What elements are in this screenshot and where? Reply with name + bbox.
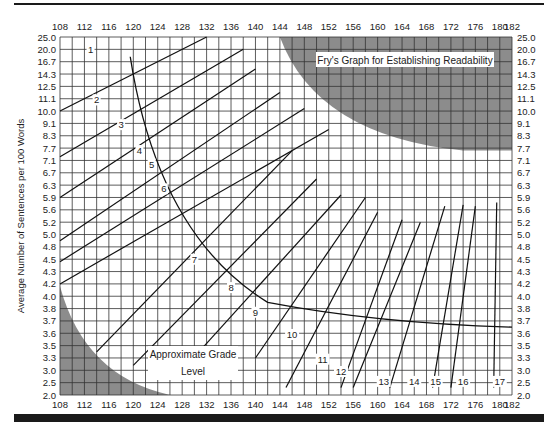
- svg-text:6.7: 6.7: [517, 167, 530, 178]
- svg-text:2.0: 2.0: [43, 390, 56, 401]
- svg-text:4.2: 4.2: [43, 278, 56, 289]
- svg-text:5.6: 5.6: [517, 204, 530, 215]
- x-axis-top-ticks: 1081121161201241281321361401441481521561…: [52, 21, 520, 32]
- svg-text:3.6: 3.6: [517, 328, 530, 339]
- grade-line-12: [341, 220, 402, 388]
- fry-readability-chart: 1081121161201241281321361401441481521561…: [0, 0, 558, 428]
- svg-text:16.7: 16.7: [38, 56, 57, 67]
- x-axis-bottom-ticks: 1081121161201241281321361401441481521561…: [52, 399, 520, 410]
- svg-text:112: 112: [77, 21, 92, 32]
- y-axis-left-ticks: 25.020.016.714.312.511.110.09.18.37.77.1…: [38, 32, 57, 401]
- svg-text:3.0: 3.0: [43, 365, 56, 376]
- svg-text:120: 120: [125, 21, 141, 32]
- svg-text:11.1: 11.1: [38, 93, 56, 104]
- svg-text:25.0: 25.0: [517, 32, 536, 43]
- svg-text:4.3: 4.3: [517, 266, 530, 277]
- svg-text:120: 120: [125, 399, 141, 410]
- svg-text:12.5: 12.5: [38, 81, 57, 92]
- grade-label-3: 3: [118, 119, 123, 130]
- svg-text:4.0: 4.0: [43, 291, 56, 302]
- svg-text:156: 156: [345, 21, 361, 32]
- grade-label-8: 8: [228, 282, 233, 293]
- svg-text:176: 176: [467, 21, 483, 32]
- svg-text:160: 160: [370, 399, 386, 410]
- svg-text:20.0: 20.0: [38, 44, 57, 55]
- svg-text:2.5: 2.5: [43, 377, 56, 388]
- grade-line-2: [60, 49, 243, 156]
- svg-text:136: 136: [223, 399, 239, 410]
- svg-text:164: 164: [394, 399, 410, 410]
- svg-text:14.3: 14.3: [38, 69, 57, 80]
- svg-text:6.3: 6.3: [43, 180, 56, 191]
- svg-text:3.6: 3.6: [43, 328, 56, 339]
- grade-label-1: 1: [88, 44, 93, 55]
- svg-text:168: 168: [419, 21, 435, 32]
- grade-annotation-line1: Approximate Grade: [150, 349, 237, 360]
- svg-text:116: 116: [101, 21, 116, 32]
- svg-text:108: 108: [52, 399, 68, 410]
- grade-label-15: 15: [430, 376, 441, 387]
- svg-text:172: 172: [443, 21, 459, 32]
- svg-text:176: 176: [467, 399, 483, 410]
- svg-text:160: 160: [370, 21, 386, 32]
- svg-text:152: 152: [321, 21, 337, 32]
- svg-text:2.5: 2.5: [517, 377, 530, 388]
- grade-line-17: [494, 202, 497, 387]
- svg-text:140: 140: [248, 399, 264, 410]
- grade-label-9: 9: [253, 307, 258, 318]
- svg-text:5.2: 5.2: [43, 217, 56, 228]
- svg-text:4.8: 4.8: [517, 241, 530, 252]
- svg-text:7.7: 7.7: [43, 143, 56, 154]
- svg-text:124: 124: [150, 399, 166, 410]
- grade-label-12: 12: [336, 366, 347, 377]
- svg-text:11.1: 11.1: [517, 93, 535, 104]
- svg-text:3.7: 3.7: [43, 315, 56, 326]
- svg-text:4.0: 4.0: [517, 291, 530, 302]
- svg-text:4.8: 4.8: [43, 241, 56, 252]
- svg-text:4.5: 4.5: [517, 254, 530, 265]
- svg-text:144: 144: [272, 21, 288, 32]
- svg-text:3.8: 3.8: [43, 303, 56, 314]
- svg-text:5.2: 5.2: [517, 217, 530, 228]
- svg-text:20.0: 20.0: [517, 44, 536, 55]
- y-axis-label: Average Number of Sentences per 100 Word…: [15, 118, 26, 313]
- svg-text:182: 182: [504, 21, 520, 32]
- chart-title-box: Fry's Graph for Establishing Readability: [316, 52, 494, 67]
- svg-text:3.8: 3.8: [517, 303, 530, 314]
- svg-text:132: 132: [199, 399, 215, 410]
- svg-text:8.3: 8.3: [43, 130, 56, 141]
- grade-label-6: 6: [161, 183, 166, 194]
- svg-text:128: 128: [174, 21, 190, 32]
- svg-text:6.7: 6.7: [43, 167, 56, 178]
- grade-label-13: 13: [378, 376, 389, 387]
- svg-text:14.3: 14.3: [517, 69, 536, 80]
- grade-label-4: 4: [137, 145, 142, 156]
- shaded-regions: [60, 37, 512, 395]
- y-axis-right-ticks: 25.020.016.714.312.511.110.09.18.37.77.1…: [517, 32, 536, 401]
- svg-text:7.1: 7.1: [517, 155, 530, 166]
- svg-text:116: 116: [101, 399, 116, 410]
- grade-label-14: 14: [409, 376, 420, 387]
- svg-text:3.0: 3.0: [517, 365, 530, 376]
- svg-text:5.0: 5.0: [517, 229, 530, 240]
- grade-label-5: 5: [149, 159, 154, 170]
- svg-text:3.7: 3.7: [517, 315, 530, 326]
- grade-annotation-line2: Level: [181, 366, 205, 377]
- grade-label-2: 2: [94, 94, 99, 105]
- svg-text:172: 172: [443, 399, 459, 410]
- grade-line-10: [255, 197, 365, 357]
- grade-annotation: Approximate Grade Level: [148, 346, 238, 380]
- svg-text:5.0: 5.0: [43, 229, 56, 240]
- svg-text:136: 136: [223, 21, 239, 32]
- svg-text:5.9: 5.9: [517, 192, 530, 203]
- grade-label-11: 11: [318, 354, 328, 365]
- svg-text:128: 128: [174, 399, 190, 410]
- svg-text:168: 168: [419, 399, 435, 410]
- svg-text:16.7: 16.7: [517, 56, 536, 67]
- svg-text:3.5: 3.5: [43, 340, 56, 351]
- svg-text:25.0: 25.0: [38, 32, 57, 43]
- svg-text:3.5: 3.5: [517, 340, 530, 351]
- svg-text:3.3: 3.3: [43, 352, 56, 363]
- grade-line-9: [182, 195, 341, 370]
- svg-text:108: 108: [52, 21, 68, 32]
